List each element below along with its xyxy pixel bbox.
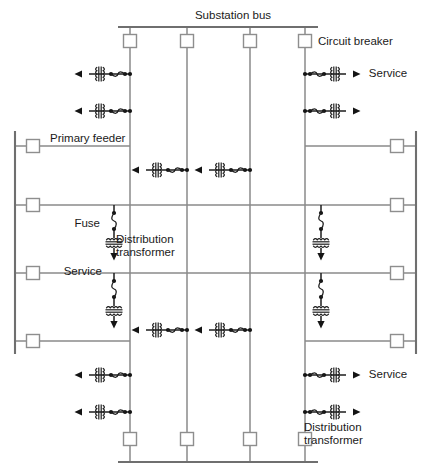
connection-dot	[303, 410, 307, 414]
label-substation-bus: Substation bus	[195, 9, 271, 21]
label-service-mid-left: Service	[64, 265, 102, 277]
circuit-breaker-symbol[interactable]	[391, 199, 404, 212]
transformer-winding	[331, 105, 332, 118]
service-tap[interactable]	[195, 323, 253, 338]
service-tap[interactable]	[303, 405, 361, 420]
service-arrow-icon	[353, 107, 361, 114]
connection-dot	[128, 410, 132, 414]
transformer-winding	[216, 164, 217, 177]
transformer-winding	[96, 406, 97, 419]
transformer-winding	[160, 324, 161, 337]
service-arrow-icon	[353, 70, 361, 77]
connection-dot	[303, 373, 307, 377]
label-distribution-transformer-1: Distribution	[116, 233, 174, 245]
service-drop[interactable]	[313, 273, 330, 329]
connection-dot	[303, 109, 307, 113]
label-distribution-transformer-4: transformer	[304, 434, 363, 446]
service-tap[interactable]	[75, 67, 133, 82]
transformer-winding	[314, 239, 329, 240]
service-arrow-icon	[75, 371, 83, 378]
service-tap[interactable]	[132, 163, 190, 178]
label-service-top-right: Service	[369, 67, 407, 79]
transformer-winding	[223, 324, 224, 337]
circuit-breaker-symbol[interactable]	[244, 433, 257, 446]
circuit-breaker-symbol[interactable]	[27, 140, 40, 153]
service-arrow-icon	[317, 321, 324, 329]
schematic-canvas: Substation busCircuit breakerServicePrim…	[0, 0, 432, 475]
bus-layer	[15, 27, 416, 462]
connection-dot	[128, 72, 132, 76]
transformer-winding	[338, 68, 339, 81]
service-arrow-icon	[75, 408, 83, 415]
transformer-winding	[331, 68, 332, 81]
service-tap[interactable]	[75, 368, 133, 383]
circuit-breaker-symbol[interactable]	[27, 335, 40, 348]
label-primary-feeder: Primary feeder	[50, 132, 126, 144]
service-arrow-icon	[353, 371, 361, 378]
connection-dot	[248, 168, 252, 172]
connection-dot	[303, 72, 307, 76]
circuit-breaker-symbol[interactable]	[27, 199, 40, 212]
transformer-winding	[153, 324, 154, 337]
service-tap[interactable]	[303, 368, 361, 383]
service-arrow-icon	[132, 166, 140, 173]
connection-dot	[185, 168, 189, 172]
circuit-breaker-layer	[27, 35, 404, 446]
circuit-breaker-symbol[interactable]	[181, 35, 194, 48]
service-arrow-icon	[317, 253, 324, 261]
fuse-symbol	[112, 213, 117, 229]
transformer-winding	[331, 406, 332, 419]
circuit-breaker-symbol[interactable]	[391, 335, 404, 348]
circuit-breaker-symbol[interactable]	[391, 267, 404, 280]
transformer-winding	[103, 105, 104, 118]
transformer-winding	[223, 164, 224, 177]
connection-dot	[128, 373, 132, 377]
transformer-winding	[96, 369, 97, 382]
circuit-breaker-symbol[interactable]	[124, 433, 137, 446]
service-tap[interactable]	[75, 405, 133, 420]
fuse-symbol	[319, 281, 324, 297]
fuse-symbol	[319, 213, 324, 229]
one-line-diagram: Substation busCircuit breakerServicePrim…	[0, 0, 432, 475]
transformer-winding	[314, 307, 329, 308]
transformer-winding	[331, 369, 332, 382]
transformer-winding	[314, 246, 329, 247]
service-arrow-icon	[195, 166, 203, 173]
service-arrow-icon	[353, 408, 361, 415]
label-service-bottom-right: Service	[369, 368, 407, 380]
label-distribution-transformer-3: Distribution	[304, 421, 362, 433]
service-arrow-icon	[195, 326, 203, 333]
transformer-winding	[103, 406, 104, 419]
transformer-winding	[338, 406, 339, 419]
circuit-breaker-symbol[interactable]	[391, 140, 404, 153]
connection-dot	[185, 328, 189, 332]
service-arrow-icon	[110, 321, 117, 329]
label-distribution-transformer-2: transformer	[116, 246, 175, 258]
transformer-winding	[153, 164, 154, 177]
transformer-winding	[160, 164, 161, 177]
transformer-winding	[314, 314, 329, 315]
service-tap[interactable]	[132, 323, 190, 338]
transformer-winding	[96, 105, 97, 118]
circuit-breaker-symbol[interactable]	[244, 35, 257, 48]
label-fuse: Fuse	[74, 217, 100, 229]
service-drop[interactable]	[106, 273, 123, 329]
transformer-winding	[338, 105, 339, 118]
service-tap[interactable]	[303, 67, 361, 82]
transformer-winding	[107, 307, 122, 308]
connection-dot	[128, 109, 132, 113]
service-drop[interactable]	[313, 205, 330, 261]
circuit-breaker-symbol[interactable]	[181, 433, 194, 446]
transformer-winding	[216, 324, 217, 337]
service-tap[interactable]	[303, 104, 361, 119]
circuit-breaker-symbol[interactable]	[299, 35, 312, 48]
service-tap[interactable]	[75, 104, 133, 119]
service-tap[interactable]	[195, 163, 253, 178]
service-arrow-icon	[75, 70, 83, 77]
circuit-breaker-symbol[interactable]	[124, 35, 137, 48]
transformer-winding	[103, 369, 104, 382]
circuit-breaker-symbol[interactable]	[27, 267, 40, 280]
transformer-winding	[107, 314, 122, 315]
connection-dot	[248, 328, 252, 332]
fuse-symbol	[112, 281, 117, 297]
